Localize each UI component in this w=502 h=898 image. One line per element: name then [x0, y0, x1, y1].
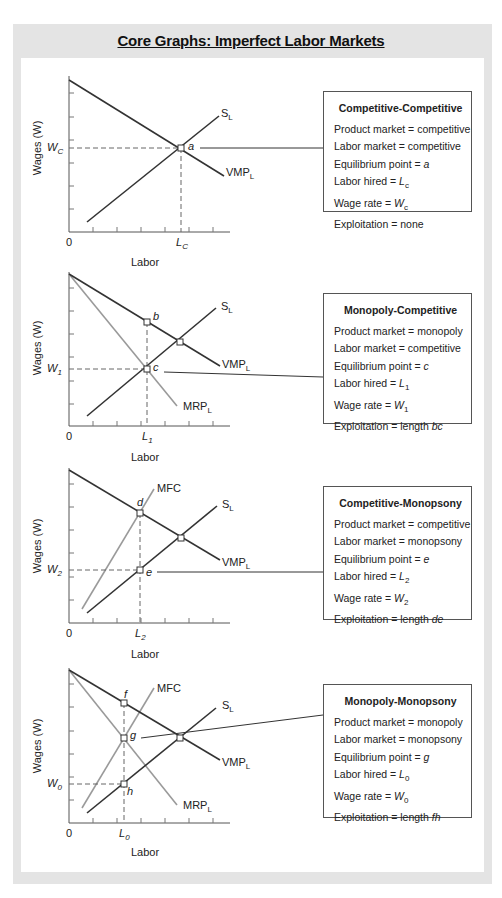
box-title: Competitive-Competitive	[334, 100, 471, 118]
vmp-symbol: VMP	[222, 358, 246, 370]
line-value: fh	[432, 811, 441, 823]
line-label: Exploitation = length	[334, 420, 432, 432]
mrp-symbol: MRP	[183, 799, 207, 811]
line-value: e	[424, 553, 430, 565]
mrp-subscript: L	[207, 805, 211, 814]
line-value: competitive	[417, 123, 470, 135]
box-line: Exploitation = length fh	[334, 809, 471, 827]
supply-curve-label: SL	[222, 498, 234, 513]
point-intersection	[177, 735, 183, 741]
box-line: Labor hired = Lc	[334, 173, 471, 195]
line-value: monopsony	[408, 733, 462, 745]
line-label: Equilibrium point =	[334, 158, 424, 170]
line-value: bc	[432, 420, 443, 432]
vmp-curve-label: VMPL	[222, 358, 250, 373]
line-value: W	[394, 197, 404, 209]
supply-curve	[87, 506, 217, 613]
line-label: Equilibrium point =	[334, 360, 424, 372]
point-c	[144, 366, 150, 372]
info-box-competitive-monopsony: Competitive-Monopsony Product market = c…	[323, 486, 472, 620]
line-value: monopoly	[417, 716, 463, 728]
line-label: Product market =	[334, 123, 417, 135]
box-line: Labor market = monopsony	[334, 731, 471, 749]
line-value: none	[400, 218, 423, 230]
line-subscript: 1	[405, 383, 409, 392]
box-title: Competitive-Monopsony	[334, 495, 471, 513]
labor-label: L0	[119, 827, 130, 842]
line-value: de	[432, 613, 444, 625]
supply-subscript: L	[228, 113, 232, 122]
wage-symbol: W	[47, 362, 57, 374]
mfc-curve	[82, 489, 154, 609]
point-label-d: d	[137, 496, 143, 508]
wage-subscript: 1	[57, 368, 61, 377]
line-value: W	[394, 592, 404, 604]
supply-subscript: L	[229, 705, 233, 714]
wage-subscript: 0	[57, 783, 61, 792]
line-label: Product market =	[334, 325, 417, 337]
supply-subscript: L	[229, 504, 233, 513]
origin-label: 0	[66, 627, 72, 639]
box-line: Equilibrium point = g	[334, 749, 471, 767]
line-label: Wage rate =	[334, 790, 394, 802]
origin-label: 0	[66, 236, 72, 248]
mrp-symbol: MRP	[183, 400, 207, 412]
wage-label: W1	[47, 362, 62, 377]
box-line: Exploitation = length bc	[334, 418, 471, 436]
box-line: Exploitation = none	[334, 216, 471, 234]
line-label: Labor hired =	[334, 377, 399, 389]
graph-competitive-competitive	[69, 76, 323, 232]
wage-symbol: W	[47, 563, 57, 575]
line-label: Labor market =	[334, 535, 408, 547]
vmp-symbol: VMP	[226, 166, 250, 178]
y-axis-label: Wages (W)	[31, 321, 43, 376]
point-a	[178, 145, 184, 151]
line-value: W	[394, 399, 404, 411]
box-line: Labor hired = L2	[334, 568, 471, 590]
axes	[69, 468, 230, 623]
vmp-curve	[69, 470, 220, 560]
line-value: a	[424, 158, 430, 170]
point-label-g: g	[130, 729, 136, 741]
info-box-monopoly-monopsony: Monopoly-Monopsony Product market = mono…	[323, 684, 472, 818]
box-line: Product market = competitive	[334, 121, 471, 139]
x-axis-label: Labor	[131, 256, 159, 268]
point-label-e: e	[146, 566, 152, 578]
line-value: monopsony	[408, 535, 462, 547]
point-label-c: c	[153, 361, 159, 373]
wage-subscript: C	[57, 147, 63, 156]
box-line: Labor hired = L1	[334, 375, 471, 397]
point-d	[137, 510, 143, 516]
vmp-subscript: L	[246, 762, 250, 771]
line-label: Labor market =	[334, 733, 408, 745]
vmp-curve-label: VMPL	[222, 756, 250, 771]
mrp-curve-label: MRPL	[183, 799, 212, 814]
point-intersection	[177, 339, 183, 345]
vmp-symbol: VMP	[222, 556, 246, 568]
vmp-symbol: VMP	[222, 756, 246, 768]
box-line: Equilibrium point = e	[334, 551, 471, 569]
box-line: Labor market = monopsony	[334, 533, 471, 551]
line-label: Wage rate =	[334, 197, 394, 209]
supply-subscript: L	[228, 306, 232, 315]
origin-label: 0	[66, 827, 72, 839]
line-label: Exploitation = length	[334, 613, 432, 625]
mrp-subscript: L	[207, 406, 211, 415]
supply-curve-label: SL	[221, 300, 233, 315]
x-axis-label: Labor	[131, 846, 159, 858]
x-axis-label: Labor	[131, 648, 159, 660]
box-line: Equilibrium point = c	[334, 358, 471, 376]
supply-curve-label: SL	[221, 107, 233, 122]
line-label: Exploitation = length	[334, 811, 432, 823]
labor-subscript: C	[182, 242, 188, 251]
x-axis-label: Labor	[131, 451, 159, 463]
line-value: monopoly	[417, 325, 463, 337]
line-subscript: 2	[404, 598, 408, 607]
mrp-curve-label: MRPL	[183, 400, 212, 415]
box-title: Monopoly-Competitive	[334, 302, 471, 320]
box-line: Product market = competitive	[334, 516, 471, 534]
box-line: Labor hired = L0	[334, 766, 471, 788]
line-label: Wage rate =	[334, 399, 394, 411]
line-label: Labor hired =	[334, 570, 399, 582]
line-label: Labor market =	[334, 140, 408, 152]
